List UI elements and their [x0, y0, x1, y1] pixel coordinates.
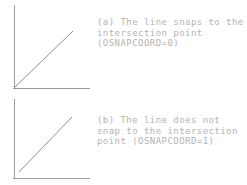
- diagram-a: [13, 5, 90, 89]
- caption-a-line-1: (a) The line snaps to the: [97, 17, 247, 28]
- caption-a-line-2: intersection point: [97, 28, 247, 39]
- caption-a: (a) The line snaps to the intersection p…: [97, 17, 247, 49]
- diagram-a-snapped-diagonal-line: [14, 31, 73, 88]
- osnapcoord-illustration: (a) The line snaps to the intersection p…: [0, 0, 247, 185]
- caption-b-line-1: (b) The line does not: [97, 115, 247, 126]
- caption-b: (b) The line does not snap to the inters…: [97, 115, 247, 147]
- caption-b-line-2: snap to the intersection: [97, 126, 247, 137]
- caption-b-line-3: point (OSNAPCOORD=1): [97, 136, 247, 147]
- diagram-b-unsnapped-diagonal-line: [19, 117, 72, 172]
- diagram-b: [13, 99, 90, 179]
- caption-a-line-3: (OSNAPCOORD=0): [97, 38, 247, 49]
